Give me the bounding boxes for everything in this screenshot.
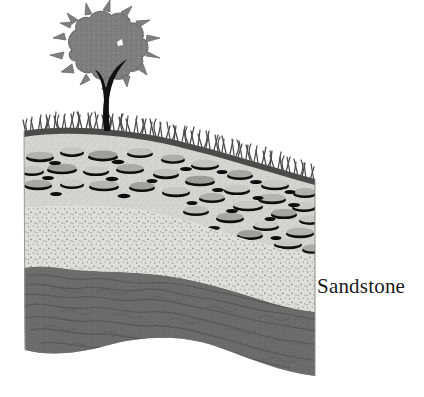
tree — [50, 0, 160, 131]
tree-canopy — [50, 0, 160, 90]
sandstone-label: Sandstone — [317, 275, 405, 298]
figure-canvas: Sandstone — [0, 0, 424, 397]
block-body — [18, 0, 323, 390]
geologic-block-diagram — [0, 0, 424, 397]
